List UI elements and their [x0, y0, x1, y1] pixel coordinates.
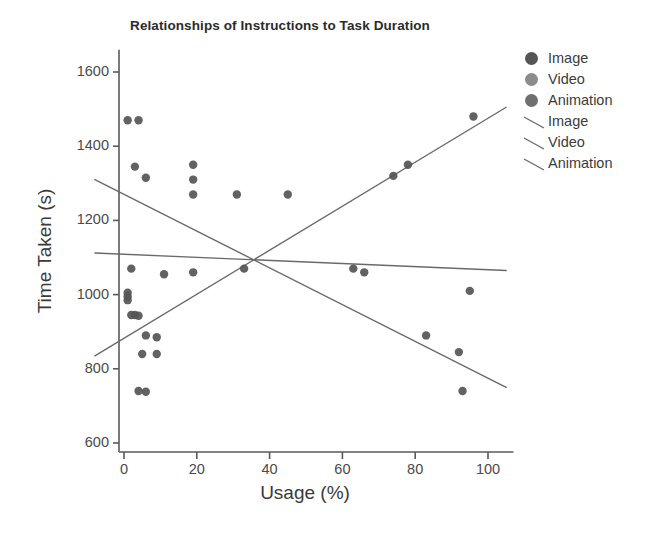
chart-figure: Relationships of Instructions to Task Du… — [0, 0, 659, 535]
x-tick-label: 100 — [458, 461, 518, 477]
legend-item-line-image[interactable]: Image — [522, 111, 657, 132]
legend-label: Video — [548, 69, 585, 90]
legend-marker-icon — [522, 90, 548, 111]
y-tick-label: 1200 — [54, 211, 109, 227]
x-axis-label: Usage (%) — [120, 482, 490, 504]
legend-label: Image — [548, 111, 588, 132]
axis-spines — [119, 50, 513, 452]
legend-label: Image — [548, 48, 588, 69]
y-tick-label: 1600 — [54, 63, 109, 79]
x-tick-label: 0 — [94, 461, 154, 477]
y-tick-label: 1400 — [54, 137, 109, 153]
legend-line-icon — [522, 132, 548, 153]
legend-label: Animation — [548, 153, 612, 174]
y-axis-label: Time Taken (s) — [34, 136, 56, 366]
y-tick-label: 800 — [54, 360, 109, 376]
legend-item-marker-image[interactable]: Image — [522, 48, 657, 69]
legend-label: Video — [548, 132, 585, 153]
scatter-points — [123, 112, 477, 396]
legend-dot-icon — [525, 94, 538, 107]
legend-marker-icon — [522, 69, 548, 90]
x-tick-label: 40 — [240, 461, 300, 477]
y-tick-label: 1000 — [54, 286, 109, 302]
legend-line-icon — [522, 153, 548, 174]
chart-legend: ImageVideoAnimationImageVideoAnimation — [522, 48, 657, 174]
legend-item-line-animation[interactable]: Animation — [522, 153, 657, 174]
legend-marker-icon — [522, 48, 548, 69]
legend-dot-icon — [525, 73, 538, 86]
legend-label: Animation — [548, 90, 612, 111]
legend-dot-icon — [525, 52, 538, 65]
legend-item-marker-video[interactable]: Video — [522, 69, 657, 90]
x-tick-label: 60 — [312, 461, 372, 477]
axis-ticks — [113, 72, 488, 459]
legend-item-line-video[interactable]: Video — [522, 132, 657, 153]
legend-item-marker-animation[interactable]: Animation — [522, 90, 657, 111]
x-tick-label: 80 — [385, 461, 445, 477]
trend-lines — [95, 107, 506, 387]
y-tick-label: 600 — [54, 434, 109, 450]
x-tick-label: 20 — [167, 461, 227, 477]
legend-line-icon — [522, 111, 548, 132]
